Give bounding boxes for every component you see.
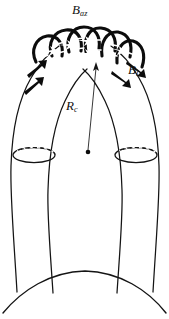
left-ellipse-back-dashed bbox=[13, 148, 55, 155]
label-azimuthal-field: Baz bbox=[72, 3, 88, 18]
rc-center-dot bbox=[86, 150, 91, 155]
photosphere-surface bbox=[3, 271, 166, 313]
label-rc-subscript: c bbox=[74, 105, 78, 114]
helix-band-1 bbox=[34, 36, 63, 62]
label-bl-subscript: l bbox=[136, 69, 138, 78]
tube-outlines bbox=[11, 46, 159, 293]
figure-canvas bbox=[0, 0, 169, 319]
tube-right-outer-edge bbox=[111, 46, 159, 292]
hatch-2a bbox=[57, 42, 65, 44]
right-ellipse-back-dash-overlay bbox=[115, 148, 157, 155]
hatch-3a bbox=[75, 38, 84, 39]
radius-of-curvature-indicator bbox=[86, 62, 99, 154]
label-radius-of-curvature: Rc bbox=[66, 99, 78, 114]
label-baz-subscript: az bbox=[80, 9, 88, 18]
hatch-2b bbox=[58, 51, 66, 53]
right-ellipse-back-dashed bbox=[115, 148, 157, 155]
tube-right-inner-edge bbox=[83, 69, 122, 293]
photosphere-arc bbox=[3, 271, 166, 313]
hatch-3b bbox=[75, 48, 84, 49]
label-rc-symbol: R bbox=[66, 98, 74, 113]
label-baz-symbol: B bbox=[72, 2, 80, 17]
rc-leader-line bbox=[88, 68, 96, 150]
left-leg-cross-section bbox=[13, 148, 55, 163]
label-longitudinal-field: Bl bbox=[128, 63, 138, 78]
hatch-1a bbox=[40, 47, 47, 50]
right-leg-cross-section bbox=[115, 148, 157, 163]
hatch-5b bbox=[108, 54, 117, 56]
flux-tube-figure: Baz Bl Rc bbox=[0, 0, 169, 319]
label-bl-symbol: B bbox=[128, 62, 136, 77]
tube-left-outer-edge bbox=[11, 46, 59, 292]
left-ellipse-back-dash-overlay bbox=[13, 148, 55, 155]
